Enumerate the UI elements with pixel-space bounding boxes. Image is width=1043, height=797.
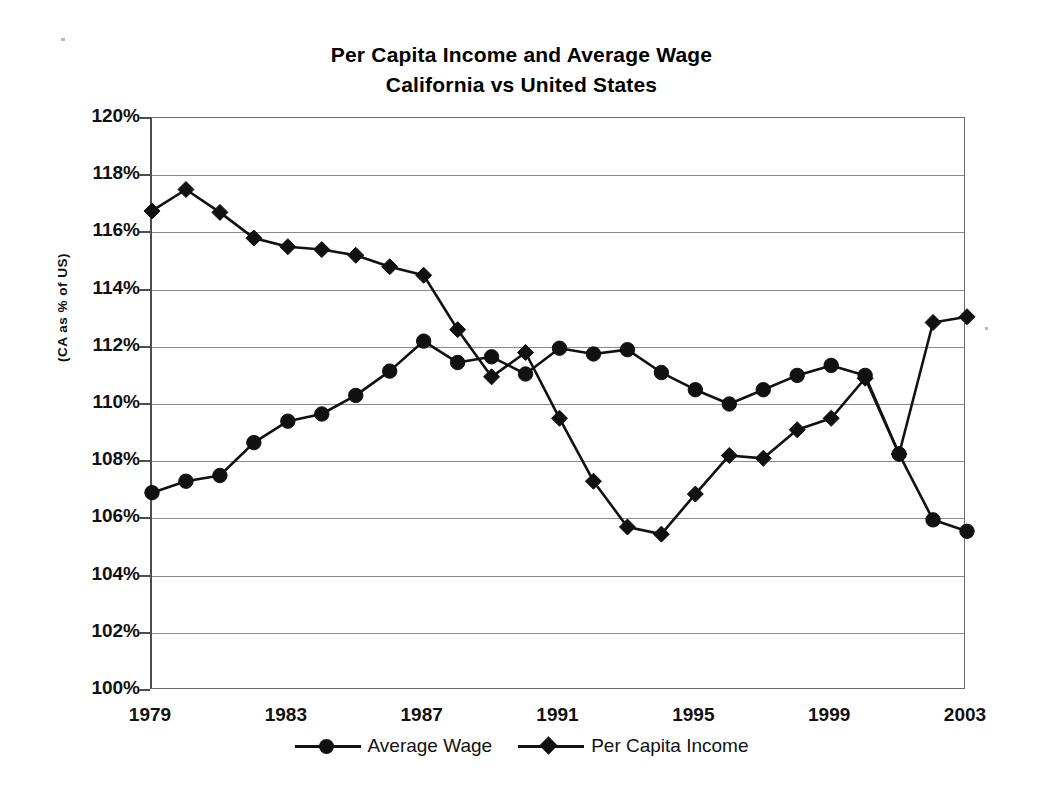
x-tick-label: 1983 <box>246 704 326 726</box>
scan-speck-2 <box>61 38 65 41</box>
x-tick-label: 1979 <box>110 704 190 726</box>
x-tick-label: 1991 <box>518 704 598 726</box>
series-line <box>152 341 967 531</box>
y-tick-mark <box>139 174 150 176</box>
data-point-circle <box>484 350 498 364</box>
legend-marker-circle-icon <box>295 737 361 755</box>
legend-marker-diamond-icon <box>518 737 584 755</box>
y-tick-label: 102% <box>10 622 140 640</box>
data-point-circle <box>824 358 838 372</box>
data-point-diamond <box>959 309 975 325</box>
data-point-circle <box>281 414 295 428</box>
data-point-diamond <box>891 446 907 462</box>
data-point-circle <box>518 367 532 381</box>
scan-speck <box>985 327 988 330</box>
y-tick-mark <box>139 403 150 405</box>
data-layer <box>152 118 967 690</box>
x-tick-label: 2003 <box>925 704 1005 726</box>
data-point-diamond <box>144 203 160 219</box>
y-tick-label: 106% <box>10 507 140 525</box>
series-line <box>152 190 967 535</box>
data-point-circle <box>213 468 227 482</box>
y-tick-label: 100% <box>10 679 140 697</box>
data-point-circle <box>654 365 668 379</box>
data-point-circle <box>247 435 261 449</box>
legend-item-per-capita-income[interactable]: Per Capita Income <box>518 735 748 757</box>
data-point-circle <box>383 364 397 378</box>
y-tick-mark <box>139 231 150 233</box>
plot-area <box>150 117 965 689</box>
series-per-capita-income <box>144 182 975 543</box>
data-point-diamond <box>348 247 364 263</box>
data-point-circle <box>552 341 566 355</box>
y-tick-mark <box>139 689 150 691</box>
chart-title-line2: California vs United States <box>0 70 1043 100</box>
data-point-circle <box>620 342 634 356</box>
data-point-circle <box>586 347 600 361</box>
data-point-circle <box>926 513 940 527</box>
y-tick-mark <box>139 575 150 577</box>
y-tick-mark <box>139 117 150 119</box>
data-point-circle <box>960 524 974 538</box>
legend-label: Average Wage <box>368 735 493 757</box>
x-tick-label: 1995 <box>653 704 733 726</box>
series-average-wage <box>145 334 974 539</box>
chart-page: Per Capita Income and Average Wage Calif… <box>0 0 1043 797</box>
data-point-circle <box>756 383 770 397</box>
x-tick-label: 1999 <box>789 704 869 726</box>
data-point-circle <box>145 485 159 499</box>
data-point-diamond <box>178 182 194 198</box>
data-point-diamond <box>382 259 398 275</box>
chart-legend: Average WagePer Capita Income <box>0 735 1043 757</box>
y-tick-label: 118% <box>10 164 140 182</box>
data-point-circle <box>790 368 804 382</box>
y-tick-mark <box>139 460 150 462</box>
data-point-diamond <box>416 267 432 283</box>
data-point-circle <box>450 355 464 369</box>
y-tick-label: 110% <box>10 393 140 411</box>
x-tick-label: 1987 <box>382 704 462 726</box>
data-point-circle <box>722 397 736 411</box>
y-tick-mark <box>139 632 150 634</box>
data-point-circle <box>349 388 363 402</box>
y-tick-label: 112% <box>10 336 140 354</box>
y-tick-mark <box>139 346 150 348</box>
chart-title: Per Capita Income and Average Wage Calif… <box>0 40 1043 100</box>
data-point-circle <box>179 474 193 488</box>
data-point-circle <box>416 334 430 348</box>
y-tick-label: 120% <box>10 107 140 125</box>
data-point-circle <box>315 407 329 421</box>
y-tick-mark <box>139 517 150 519</box>
y-tick-mark <box>139 289 150 291</box>
y-tick-label: 104% <box>10 565 140 583</box>
legend-item-average-wage[interactable]: Average Wage <box>295 735 493 757</box>
chart-title-line1: Per Capita Income and Average Wage <box>331 43 712 66</box>
data-point-diamond <box>552 410 568 426</box>
data-point-circle <box>688 383 702 397</box>
y-tick-label: 116% <box>10 221 140 239</box>
data-point-diamond <box>314 242 330 258</box>
data-point-diamond <box>280 239 296 255</box>
legend-label: Per Capita Income <box>591 735 748 757</box>
y-tick-label: 114% <box>10 279 140 297</box>
data-point-diamond <box>925 314 941 330</box>
y-tick-label: 108% <box>10 450 140 468</box>
